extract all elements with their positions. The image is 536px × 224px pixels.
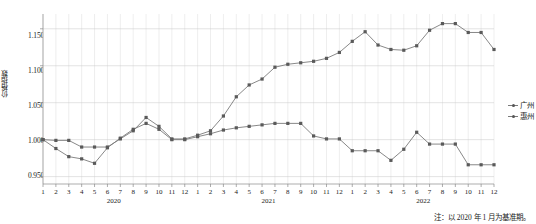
- legend-label-huizhou: 惠州: [520, 111, 534, 122]
- x-axis-tick-21: 10: [307, 188, 321, 196]
- data-point: [260, 77, 263, 80]
- x-axis-tick-2: 3: [62, 188, 76, 196]
- data-point: [364, 30, 367, 33]
- x-axis-tick-30: 7: [423, 188, 437, 196]
- legend-label-guangzhou: 广州: [520, 100, 534, 111]
- data-point: [209, 129, 212, 132]
- data-point: [492, 163, 495, 166]
- x-axis-year-2022: 2022: [403, 197, 443, 205]
- data-point: [157, 125, 160, 128]
- data-point: [467, 31, 470, 34]
- data-point: [441, 22, 444, 25]
- data-point: [402, 49, 405, 52]
- x-axis-tick-1: 2: [49, 188, 63, 196]
- x-axis-tick-29: 6: [410, 188, 424, 196]
- data-point: [106, 146, 109, 149]
- data-point: [428, 29, 431, 32]
- data-point: [351, 40, 354, 43]
- x-axis-tick-32: 9: [448, 188, 462, 196]
- data-point: [286, 122, 289, 125]
- x-axis-tick-20: 9: [294, 188, 308, 196]
- data-point: [93, 145, 96, 148]
- chart-note: 注：以 2020 年 1 月为基准期。: [434, 211, 530, 222]
- x-axis-tick-34: 11: [474, 188, 488, 196]
- data-point: [67, 155, 70, 158]
- data-point: [480, 163, 483, 166]
- x-axis-tick-14: 3: [216, 188, 230, 196]
- data-point: [248, 83, 251, 86]
- data-point: [338, 51, 341, 54]
- x-axis-tick-11: 12: [178, 188, 192, 196]
- data-point: [67, 139, 70, 142]
- data-point: [144, 116, 147, 119]
- data-point: [338, 137, 341, 140]
- data-point: [389, 48, 392, 51]
- data-point: [454, 22, 457, 25]
- x-axis-tick-24: 1: [345, 188, 359, 196]
- x-axis-tick-16: 5: [242, 188, 256, 196]
- data-point: [286, 63, 289, 66]
- data-point: [248, 125, 251, 128]
- data-point: [428, 142, 431, 145]
- legend-item-huizhou[interactable]: 惠州: [508, 111, 534, 122]
- data-point: [144, 122, 147, 125]
- data-point: [54, 147, 57, 150]
- x-axis-tick-18: 7: [268, 188, 282, 196]
- data-point: [312, 134, 315, 137]
- x-axis-tick-4: 5: [88, 188, 102, 196]
- x-axis-tick-10: 11: [165, 188, 179, 196]
- data-point: [119, 137, 122, 140]
- data-point: [235, 126, 238, 129]
- x-axis-tick-35: 12: [487, 188, 501, 196]
- data-point: [454, 142, 457, 145]
- data-point: [364, 149, 367, 152]
- x-axis-tick-26: 3: [371, 188, 385, 196]
- data-point: [389, 159, 392, 162]
- data-point: [492, 48, 495, 51]
- data-point: [54, 139, 57, 142]
- data-point: [196, 135, 199, 138]
- data-point: [325, 57, 328, 60]
- data-point: [222, 114, 225, 117]
- data-point: [80, 145, 83, 148]
- data-point: [273, 122, 276, 125]
- legend-line-icon: [508, 116, 518, 117]
- data-point: [183, 138, 186, 141]
- data-point: [170, 138, 173, 141]
- data-point: [415, 131, 418, 134]
- x-axis-tick-27: 4: [384, 188, 398, 196]
- data-point: [480, 31, 483, 34]
- data-point: [467, 163, 470, 166]
- x-axis-tick-23: 12: [332, 188, 346, 196]
- data-point: [222, 128, 225, 131]
- data-point: [93, 162, 96, 165]
- legend-line-icon: [508, 105, 518, 106]
- data-point: [415, 44, 418, 47]
- x-axis-year-2021: 2021: [249, 197, 289, 205]
- data-point: [260, 123, 263, 126]
- chart-legend: 广州 惠州: [508, 100, 534, 122]
- data-point: [441, 142, 444, 145]
- x-axis-tick-13: 2: [204, 188, 218, 196]
- data-point: [402, 148, 405, 151]
- x-axis-tick-17: 6: [255, 188, 269, 196]
- x-axis-tick-5: 6: [100, 188, 114, 196]
- legend-item-guangzhou[interactable]: 广州: [508, 100, 534, 111]
- data-point: [157, 128, 160, 131]
- data-point: [132, 128, 135, 131]
- x-axis-tick-33: 10: [461, 188, 475, 196]
- x-axis-year-2020: 2020: [94, 197, 134, 205]
- data-point: [273, 66, 276, 69]
- chart-container: 价格指数 1.150 1.100 1.050 1.000 0.950 广州 惠州…: [0, 0, 536, 224]
- data-point: [325, 137, 328, 140]
- data-point: [80, 157, 83, 160]
- data-point: [351, 149, 354, 152]
- data-point: [41, 138, 44, 141]
- x-axis-tick-8: 9: [139, 188, 153, 196]
- data-point: [376, 149, 379, 152]
- data-point: [312, 60, 315, 63]
- data-point: [209, 132, 212, 135]
- data-point: [376, 43, 379, 46]
- data-point: [299, 122, 302, 125]
- data-point: [235, 95, 238, 98]
